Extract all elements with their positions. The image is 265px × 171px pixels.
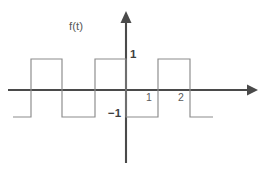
x-axis-label-one: 1: [146, 92, 152, 103]
x-axis-arrowhead: [247, 85, 258, 96]
plot-canvas: [0, 0, 265, 171]
y-axis-label-positive-one: 1: [130, 49, 136, 61]
y-axis-arrowhead: [121, 11, 132, 23]
square-wave-figure: f(t) 1 −1 1 2: [0, 0, 265, 171]
x-axis-label-two: 2: [178, 92, 184, 103]
function-label: f(t): [69, 21, 83, 33]
y-axis-label-negative-one: −1: [108, 108, 121, 120]
